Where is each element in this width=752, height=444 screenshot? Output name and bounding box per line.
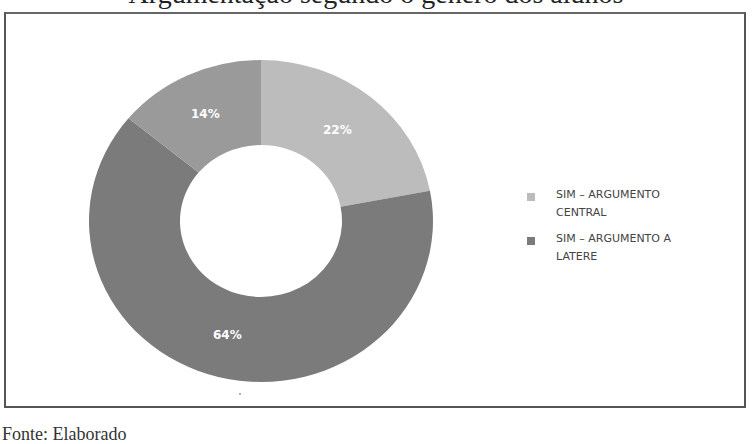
- figure-source-partial: Fonte: Elaborado: [2, 424, 126, 444]
- slice-label-latere: 64%: [213, 328, 242, 342]
- legend-label-central: SIM – ARGUMENTO CENTRAL: [556, 186, 706, 222]
- legend-label-latere: SIM – ARGUMENTO A LATERE: [556, 230, 706, 266]
- legend-swatch-latere: [527, 237, 535, 245]
- slice-label-other: 14%: [191, 107, 220, 121]
- donut-slices: [89, 60, 433, 382]
- stray-dot: [239, 393, 241, 395]
- legend-swatch-central: [527, 193, 535, 201]
- slice-label-central: 22%: [323, 123, 352, 137]
